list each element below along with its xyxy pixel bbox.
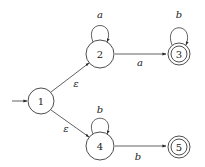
label-4-to-5: b [135,151,141,162]
label-1-to-4: ε [63,123,68,134]
nfa-diagram: 1 2 3 4 5 ε ε a a b b b [0,0,205,167]
loop-2 [91,26,108,43]
label-loop-2: a [97,9,103,20]
label-1-to-2: ε [73,78,78,89]
label-loop-4: b [97,104,103,115]
edge-1-to-2 [51,63,89,92]
loop-3 [170,28,187,45]
svg-text:1: 1 [38,96,44,107]
svg-text:5: 5 [176,142,182,153]
state-5-accepting: 5 [168,136,190,158]
state-1: 1 [28,88,54,114]
label-2-to-3: a [137,57,143,68]
state-4: 4 [86,132,114,160]
svg-text:4: 4 [97,141,103,152]
svg-text:2: 2 [97,49,103,60]
label-loop-3: b [176,9,182,20]
edge-1-to-4 [51,110,89,137]
svg-text:3: 3 [176,49,182,60]
state-2: 2 [86,40,114,68]
state-3-accepting: 3 [168,43,190,65]
